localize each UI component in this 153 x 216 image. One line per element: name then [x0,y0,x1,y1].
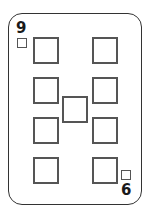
suit-square-icon-top-left [17,38,27,48]
pip-square-icon [33,77,59,104]
rank-bottom-right: 6 [121,183,131,198]
pip-square-icon [92,157,118,184]
pip-square-icon [33,117,59,144]
pip-square-icon [92,77,118,104]
rank-top-left: 9 [16,21,26,36]
pip-square-icon [33,157,59,184]
suit-square-icon-bottom-right [121,170,131,180]
pip-square-icon [92,37,118,64]
pip-square-icon [33,37,59,64]
pip-square-icon-center [62,96,88,123]
pip-square-icon [92,117,118,144]
